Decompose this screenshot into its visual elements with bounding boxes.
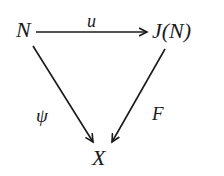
label-psi: ψ xyxy=(36,106,48,125)
label-u: u xyxy=(87,12,96,30)
arrow-f xyxy=(112,49,165,142)
node-x: X xyxy=(92,147,105,169)
label-f: F xyxy=(152,104,164,123)
node-jn: J(N) xyxy=(152,20,191,42)
arrow-psi xyxy=(33,46,93,142)
node-n: N xyxy=(16,19,31,41)
